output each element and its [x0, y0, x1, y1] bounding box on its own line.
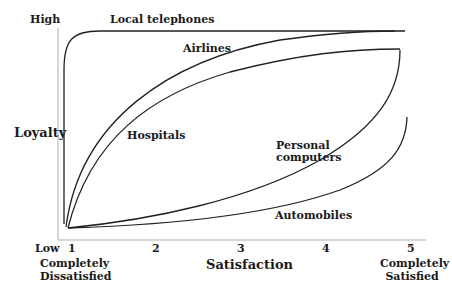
- label-personal-computers: Personal computers: [276, 140, 341, 164]
- label-local-telephones: Local telephones: [110, 14, 214, 25]
- x-tick-5: 5: [407, 243, 415, 254]
- x-note-dissatisfied: Completely Dissatisfied: [40, 258, 104, 282]
- curve-personal-computers: [68, 50, 400, 228]
- x-tick-3: 3: [237, 243, 245, 254]
- x-note-satisfied-line2: Satisfied: [380, 271, 444, 282]
- x-note-dissatisfied-line2: Dissatisfied: [40, 271, 104, 282]
- x-note-satisfied: Completely Satisfied: [380, 258, 444, 282]
- y-axis-title: Loyalty: [14, 126, 66, 139]
- label-automobiles: Automobiles: [275, 210, 352, 221]
- x-note-dissatisfied-line1: Completely: [40, 258, 104, 269]
- curve-hospitals: [68, 49, 400, 228]
- x-tick-1: 1: [68, 243, 76, 254]
- x-note-satisfied-line1: Completely: [380, 258, 444, 269]
- y-low-label: Low: [35, 243, 60, 254]
- x-axis-title: Satisfaction: [206, 258, 293, 271]
- curve-local-telephones: [64, 31, 405, 224]
- x-tick-2: 2: [152, 243, 160, 254]
- x-tick-4: 4: [322, 243, 330, 254]
- label-airlines: Airlines: [183, 43, 231, 54]
- y-high-label: High: [30, 14, 60, 25]
- label-hospitals: Hospitals: [127, 130, 185, 141]
- label-personal-computers-line2: computers: [276, 152, 341, 164]
